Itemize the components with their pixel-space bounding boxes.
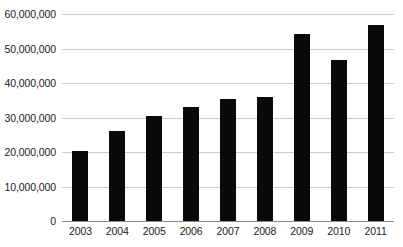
bar[interactable] [72, 151, 88, 221]
bar[interactable] [257, 97, 273, 221]
bar[interactable] [220, 99, 236, 221]
bar-slot [246, 14, 283, 221]
bar-slot [210, 14, 247, 221]
bar-slot [283, 14, 320, 221]
bar-chart: 010,000,00020,000,00030,000,00040,000,00… [0, 0, 403, 247]
y-axis-tick-label: 30,000,000 [4, 112, 56, 124]
bar[interactable] [109, 131, 125, 221]
y-axis-tick-label: 50,000,000 [4, 43, 56, 55]
bars-group [62, 14, 394, 221]
bar-slot [136, 14, 173, 221]
bar[interactable] [368, 25, 384, 221]
bar[interactable] [183, 107, 199, 221]
bar-slot [99, 14, 136, 221]
bar-slot [62, 14, 99, 221]
bar[interactable] [294, 34, 310, 221]
y-axis-tick-label: 20,000,000 [4, 146, 56, 158]
plot-area [62, 14, 394, 221]
bar-slot [320, 14, 357, 221]
axis-baseline [62, 221, 394, 222]
y-axis-tick-label: 10,000,000 [4, 181, 56, 193]
y-axis-tick-label: 40,000,000 [4, 77, 56, 89]
bar[interactable] [331, 60, 347, 221]
x-axis-tick-label: 2011 [351, 225, 401, 237]
bar-slot [357, 14, 394, 221]
y-axis-tick-label: 60,000,000 [4, 8, 56, 20]
bar-slot [173, 14, 210, 221]
bar[interactable] [146, 116, 162, 221]
